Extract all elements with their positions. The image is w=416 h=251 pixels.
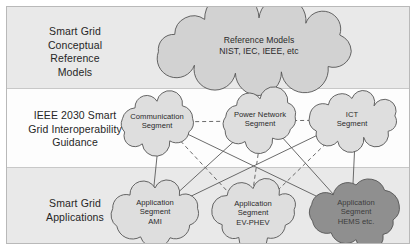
band-label-ieee-2030-interoperability: IEEE 2030 SmartGrid InteroperabilityGuid… (15, 109, 135, 150)
band-label-line: Reference (15, 52, 135, 66)
cloud-power-network-segment[interactable] (223, 87, 295, 154)
band-label-line: IEEE 2030 Smart (15, 109, 135, 123)
band-label-line: Applications (15, 211, 135, 225)
band-label-line: Models (15, 66, 135, 80)
smart-grid-layer-diagram: Smart GridConceptualReferenceModels IEEE… (0, 0, 416, 251)
band-label-smart-grid-applications: Smart GridApplications (15, 197, 135, 224)
diagram-frame: Smart GridConceptualReferenceModels IEEE… (6, 6, 410, 244)
band-label-line: Smart Grid (15, 197, 135, 211)
band-label-line: Conceptual (15, 39, 135, 53)
cloud-ict-segment[interactable] (309, 91, 397, 153)
cloud-application-segment-ev-phev[interactable] (212, 178, 296, 244)
cloud-reference-models[interactable] (157, 7, 351, 95)
band-label-line: Guidance (15, 136, 135, 150)
band-label-line: Smart Grid (15, 25, 135, 39)
band-label-conceptual-reference-models: Smart GridConceptualReferenceModels (15, 25, 135, 79)
cloud-application-segment-hems[interactable] (309, 179, 399, 244)
band-label-line: Grid Interoperability (15, 123, 135, 137)
